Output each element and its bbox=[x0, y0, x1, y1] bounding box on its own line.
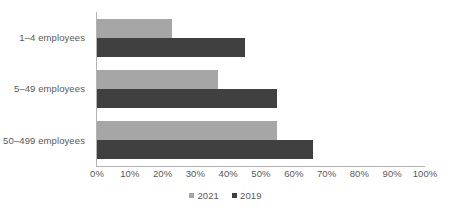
bar-chart: 1–4 employees 5–49 employees 50–499 empl… bbox=[0, 0, 451, 214]
x-axis-tick-label: 0% bbox=[90, 168, 104, 179]
bar-2021-1-4-employees bbox=[97, 19, 172, 38]
category-label: 5–49 employees bbox=[0, 63, 92, 114]
x-axis-tick-label: 20% bbox=[153, 168, 172, 179]
legend-swatch-icon bbox=[232, 193, 237, 198]
category-label: 1–4 employees bbox=[0, 12, 92, 63]
x-axis-line bbox=[96, 166, 425, 167]
plot-area bbox=[97, 12, 425, 166]
x-axis-tick-label: 10% bbox=[120, 168, 139, 179]
category-label: 50–499 employees bbox=[0, 115, 92, 166]
x-axis-tick-label: 70% bbox=[317, 168, 336, 179]
x-axis-tick-label: 40% bbox=[219, 168, 238, 179]
legend-item-2019[interactable]: 2019 bbox=[232, 190, 262, 201]
legend-label: 2019 bbox=[240, 190, 262, 201]
x-axis-tick-label: 80% bbox=[350, 168, 369, 179]
x-axis-tick-label: 30% bbox=[186, 168, 205, 179]
x-axis-tick-labels: 0%10%20%30%40%50%60%70%80%90%100% bbox=[97, 168, 425, 182]
bar-2021-50-499-employees bbox=[97, 121, 277, 140]
bar-group-1-4-employees bbox=[97, 12, 425, 63]
x-axis-tick-label: 50% bbox=[251, 168, 270, 179]
bar-2021-5-49-employees bbox=[97, 70, 218, 89]
bar-groups bbox=[97, 12, 425, 166]
bar-group-5-49-employees bbox=[97, 63, 425, 114]
bar-2019-1-4-employees bbox=[97, 38, 245, 57]
category-axis-labels: 1–4 employees 5–49 employees 50–499 empl… bbox=[0, 12, 92, 166]
x-axis-tick-label: 100% bbox=[413, 168, 438, 179]
legend-item-2021[interactable]: 2021 bbox=[189, 190, 219, 201]
bar-group-50-499-employees bbox=[97, 115, 425, 166]
legend-label: 2021 bbox=[197, 190, 219, 201]
bar-2019-5-49-employees bbox=[97, 89, 277, 108]
x-axis-tick-label: 90% bbox=[383, 168, 402, 179]
chart-legend: 20212019 bbox=[0, 190, 451, 201]
bar-2019-50-499-employees bbox=[97, 140, 313, 159]
legend-swatch-icon bbox=[189, 193, 194, 198]
x-axis-tick-label: 60% bbox=[284, 168, 303, 179]
